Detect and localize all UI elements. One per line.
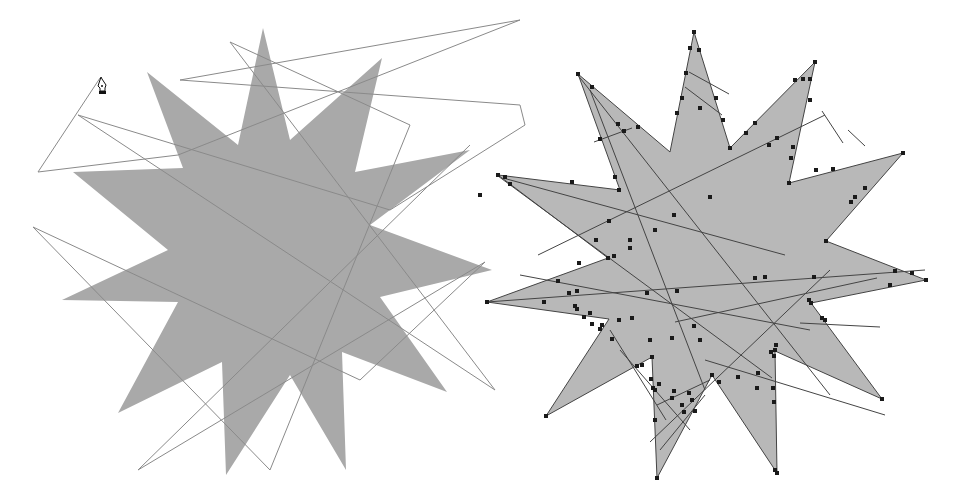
anchor-point[interactable]: [653, 418, 657, 422]
anchor-point[interactable]: [653, 228, 657, 232]
anchor-point[interactable]: [853, 195, 857, 199]
anchor-point[interactable]: [567, 291, 571, 295]
anchor-point[interactable]: [772, 400, 776, 404]
anchor-point[interactable]: [753, 121, 757, 125]
anchor-point[interactable]: [617, 318, 621, 322]
anchor-point[interactable]: [692, 30, 696, 34]
anchor-point[interactable]: [801, 77, 805, 81]
anchor-point[interactable]: [628, 246, 632, 250]
anchor-point[interactable]: [687, 391, 691, 395]
anchor-point[interactable]: [570, 180, 574, 184]
anchor-point[interactable]: [622, 129, 626, 133]
anchor-point[interactable]: [612, 254, 616, 258]
anchor-point[interactable]: [880, 397, 884, 401]
anchor-point[interactable]: [635, 364, 639, 368]
anchor-point[interactable]: [809, 301, 813, 305]
anchor-point[interactable]: [824, 239, 828, 243]
anchor-point[interactable]: [598, 137, 602, 141]
anchor-point[interactable]: [672, 213, 676, 217]
anchor-point[interactable]: [675, 289, 679, 293]
anchor-point[interactable]: [582, 315, 586, 319]
anchor-point[interactable]: [503, 175, 507, 179]
path-segment[interactable]: [848, 130, 865, 146]
anchor-point[interactable]: [793, 78, 797, 82]
anchor-point[interactable]: [680, 403, 684, 407]
anchor-point[interactable]: [590, 85, 594, 89]
anchor-point[interactable]: [657, 382, 661, 386]
anchor-point[interactable]: [849, 200, 853, 204]
anchor-point[interactable]: [814, 168, 818, 172]
anchor-point[interactable]: [628, 238, 632, 242]
anchor-point[interactable]: [613, 175, 617, 179]
anchor-point[interactable]: [607, 219, 611, 223]
anchor-point[interactable]: [650, 355, 654, 359]
anchor-point[interactable]: [823, 318, 827, 322]
anchor-point[interactable]: [769, 350, 773, 354]
anchor-point[interactable]: [670, 336, 674, 340]
anchor-point[interactable]: [697, 48, 701, 52]
anchor-point[interactable]: [717, 380, 721, 384]
anchor-point[interactable]: [508, 182, 512, 186]
anchor-point[interactable]: [655, 476, 659, 480]
anchor-point[interactable]: [496, 173, 500, 177]
anchor-point[interactable]: [767, 143, 771, 147]
anchor-point[interactable]: [594, 238, 598, 242]
anchor-point[interactable]: [616, 122, 620, 126]
anchor-point[interactable]: [771, 386, 775, 390]
anchor-point[interactable]: [485, 300, 489, 304]
anchor-point[interactable]: [714, 96, 718, 100]
anchor-point[interactable]: [636, 125, 640, 129]
anchor-point[interactable]: [693, 409, 697, 413]
anchor-point[interactable]: [610, 337, 614, 341]
anchor-point[interactable]: [775, 471, 779, 475]
anchor-point[interactable]: [576, 72, 580, 76]
anchor-point[interactable]: [648, 338, 652, 342]
anchor-point[interactable]: [728, 146, 732, 150]
anchor-point[interactable]: [910, 271, 914, 275]
anchor-point[interactable]: [600, 323, 604, 327]
anchor-point[interactable]: [542, 300, 546, 304]
anchor-point[interactable]: [588, 311, 592, 315]
path-segment[interactable]: [822, 111, 843, 143]
outlined-star-shape[interactable]: [487, 32, 926, 478]
anchor-point[interactable]: [763, 275, 767, 279]
anchor-point[interactable]: [775, 136, 779, 140]
anchor-point[interactable]: [692, 324, 696, 328]
anchor-point[interactable]: [753, 276, 757, 280]
anchor-point[interactable]: [744, 131, 748, 135]
anchor-point[interactable]: [755, 386, 759, 390]
anchor-point[interactable]: [478, 193, 482, 197]
anchor-point[interactable]: [863, 186, 867, 190]
anchor-point[interactable]: [772, 354, 776, 358]
anchor-point[interactable]: [924, 278, 928, 282]
anchor-point[interactable]: [808, 77, 812, 81]
anchor-point[interactable]: [774, 343, 778, 347]
anchor-point[interactable]: [813, 60, 817, 64]
anchor-point[interactable]: [606, 256, 610, 260]
anchor-point[interactable]: [773, 348, 777, 352]
anchor-point[interactable]: [710, 373, 714, 377]
anchor-point[interactable]: [680, 96, 684, 100]
anchor-point[interactable]: [544, 414, 548, 418]
anchor-point[interactable]: [640, 363, 644, 367]
anchor-point[interactable]: [653, 388, 657, 392]
anchor-point[interactable]: [831, 167, 835, 171]
anchor-point[interactable]: [682, 410, 686, 414]
anchor-point[interactable]: [688, 46, 692, 50]
anchor-point[interactable]: [736, 375, 740, 379]
anchor-point[interactable]: [690, 398, 694, 402]
anchor-point[interactable]: [670, 396, 674, 400]
anchor-point[interactable]: [698, 338, 702, 342]
anchor-point[interactable]: [888, 283, 892, 287]
anchor-point[interactable]: [617, 188, 621, 192]
anchor-point[interactable]: [791, 145, 795, 149]
anchor-point[interactable]: [901, 151, 905, 155]
anchor-point[interactable]: [721, 118, 725, 122]
anchor-point[interactable]: [575, 307, 579, 311]
anchor-point[interactable]: [577, 261, 581, 265]
anchor-point[interactable]: [708, 195, 712, 199]
anchor-point[interactable]: [598, 327, 602, 331]
anchor-point[interactable]: [590, 322, 594, 326]
anchor-point[interactable]: [808, 98, 812, 102]
anchor-point[interactable]: [649, 377, 653, 381]
